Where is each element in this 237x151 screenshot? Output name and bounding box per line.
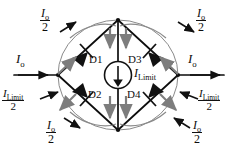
tl-half-io-den: 2 xyxy=(40,21,50,33)
bl-half-io-den: 2 xyxy=(46,133,56,145)
label-left-half-ilimit: ILimit 2 xyxy=(2,88,24,112)
label-output-io: Io xyxy=(188,52,197,65)
output-io-sub: o xyxy=(192,59,196,69)
label-current-source: ILimit xyxy=(134,67,156,79)
label-input-io: Io xyxy=(16,52,25,65)
label-bottom-left-half-io: Io 2 xyxy=(46,119,56,145)
input-io-sub: o xyxy=(20,59,24,69)
label-diode-D4: D4 xyxy=(127,89,140,100)
arrow-bottom-right-half-io xyxy=(174,118,190,128)
arrow-bottom-left-half-io xyxy=(64,118,80,128)
arrow-left-half-ilimit xyxy=(40,92,58,99)
diode-D3-symbol xyxy=(143,44,164,67)
label-diode-D1: D1 xyxy=(89,54,102,65)
label-diode-D3: D3 xyxy=(128,54,141,65)
arrow-top-right-half-io xyxy=(178,22,194,32)
arrow-right-half-ilimit xyxy=(180,92,198,99)
source-sub: Limit xyxy=(138,73,156,82)
label-top-right-half-io: Io 2 xyxy=(196,7,206,33)
junction-top xyxy=(116,18,120,22)
label-diode-D2: D2 xyxy=(88,89,101,100)
label-top-left-half-io: Io 2 xyxy=(40,7,50,33)
circuit-figure: Io Io Io 2 Io 2 Io 2 Io 2 xyxy=(0,0,237,151)
tr-half-io-den: 2 xyxy=(196,21,206,33)
junction-bottom xyxy=(116,128,120,132)
label-bottom-right-half-io: Io 2 xyxy=(192,119,202,145)
arrow-top-left-half-io xyxy=(60,22,76,32)
l-half-ilimit-den: 2 xyxy=(2,101,24,112)
label-right-half-ilimit: ILimit 2 xyxy=(198,88,220,112)
br-half-io-den: 2 xyxy=(192,133,202,145)
r-half-ilimit-den: 2 xyxy=(198,101,220,112)
current-source-symbol xyxy=(105,62,132,89)
